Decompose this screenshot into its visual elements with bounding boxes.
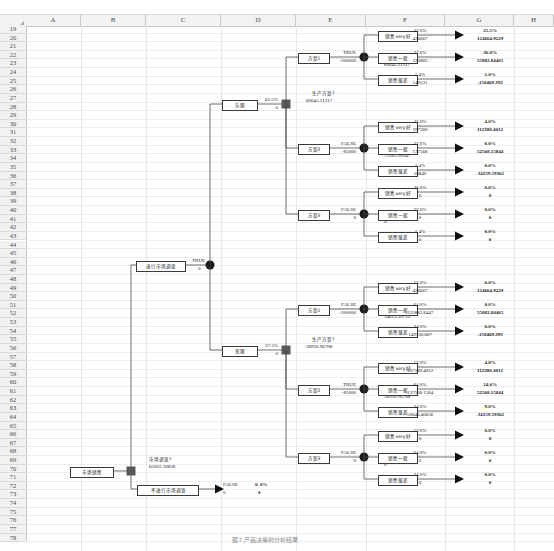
gridline-horizontal <box>26 231 554 232</box>
row-header-54[interactable]: 54 <box>0 327 27 336</box>
row-header-39[interactable]: 39 <box>0 197 27 206</box>
column-header-E[interactable]: E <box>296 14 366 27</box>
row-header-78[interactable]: 78 <box>0 534 27 543</box>
row-header-48[interactable]: 48 <box>0 275 27 284</box>
row-header-71[interactable]: 71 <box>0 473 27 482</box>
row-header-33[interactable]: 33 <box>0 146 27 155</box>
row-header-64[interactable]: 64 <box>0 413 27 422</box>
row-header-45[interactable]: 45 <box>0 249 27 258</box>
row-header-73[interactable]: 73 <box>0 490 27 499</box>
row-header-22[interactable]: 22 <box>0 51 27 60</box>
column-header-G[interactable]: G <box>445 14 514 27</box>
gridline-horizontal <box>26 446 554 447</box>
gridline-horizontal <box>26 76 554 77</box>
column-header-F[interactable]: F <box>366 14 445 27</box>
row-header-38[interactable]: 38 <box>0 189 27 198</box>
row-header-44[interactable]: 44 <box>0 241 27 250</box>
row-header-52[interactable]: 52 <box>0 309 27 318</box>
figure-caption: 图7 产品决策树分析结果 <box>100 536 430 550</box>
row-header-35[interactable]: 35 <box>0 163 27 172</box>
gridline-horizontal <box>26 326 554 327</box>
gridline-horizontal <box>26 524 554 525</box>
gridline-vertical <box>221 25 222 551</box>
gridline-horizontal <box>26 196 554 197</box>
gridline-horizontal <box>26 386 554 387</box>
row-header-69[interactable]: 69 <box>0 456 27 465</box>
row-header-74[interactable]: 74 <box>0 499 27 508</box>
row-header-30[interactable]: 30 <box>0 120 27 129</box>
row-header-66[interactable]: 66 <box>0 430 27 439</box>
gridline-horizontal <box>26 438 554 439</box>
gridline-vertical <box>514 25 515 551</box>
gridline-horizontal <box>26 343 554 344</box>
row-header-63[interactable]: 63 <box>0 404 27 413</box>
row-header-51[interactable]: 51 <box>0 301 27 310</box>
gridline-horizontal <box>26 360 554 361</box>
row-header-28[interactable]: 28 <box>0 103 27 112</box>
row-header-32[interactable]: 32 <box>0 137 27 146</box>
gridline-horizontal <box>26 214 554 215</box>
gridline-horizontal <box>26 412 554 413</box>
column-header-D[interactable]: D <box>221 14 296 27</box>
gridline-horizontal <box>26 171 554 172</box>
row-header-27[interactable]: 27 <box>0 94 27 103</box>
gridline-horizontal <box>26 472 554 473</box>
row-header-60[interactable]: 60 <box>0 378 27 387</box>
column-header-row: ABCDEFGH <box>0 14 554 25</box>
gridline-horizontal <box>26 41 554 42</box>
row-header-31[interactable]: 31 <box>0 128 27 137</box>
row-header-70[interactable]: 70 <box>0 465 27 474</box>
row-header-29[interactable]: 29 <box>0 111 27 120</box>
row-header-65[interactable]: 65 <box>0 422 27 431</box>
row-header-77[interactable]: 77 <box>0 525 27 534</box>
gridline-horizontal <box>26 308 554 309</box>
column-header-B[interactable]: B <box>81 14 146 27</box>
row-header-26[interactable]: 26 <box>0 85 27 94</box>
row-header-23[interactable]: 23 <box>0 59 27 68</box>
gridline-horizontal <box>26 162 554 163</box>
row-header-49[interactable]: 49 <box>0 284 27 293</box>
row-header-76[interactable]: 76 <box>0 516 27 525</box>
gridline-horizontal <box>26 248 554 249</box>
row-header-21[interactable]: 21 <box>0 42 27 51</box>
row-header-43[interactable]: 43 <box>0 232 27 241</box>
row-header-67[interactable]: 67 <box>0 439 27 448</box>
gridline-horizontal <box>26 179 554 180</box>
row-header-46[interactable]: 46 <box>0 258 27 267</box>
row-header-41[interactable]: 41 <box>0 215 27 224</box>
row-header-59[interactable]: 59 <box>0 370 27 379</box>
row-header-53[interactable]: 53 <box>0 318 27 327</box>
gridline-horizontal <box>26 33 554 34</box>
row-header-34[interactable]: 34 <box>0 154 27 163</box>
gridline-horizontal <box>26 93 554 94</box>
gridline-horizontal <box>26 240 554 241</box>
row-header-19[interactable]: 19 <box>0 25 27 34</box>
gridline-horizontal <box>26 300 554 301</box>
row-header-24[interactable]: 24 <box>0 68 27 77</box>
row-header-37[interactable]: 37 <box>0 180 27 189</box>
row-header-61[interactable]: 61 <box>0 387 27 396</box>
row-header-20[interactable]: 20 <box>0 34 27 43</box>
column-header-A[interactable]: A <box>26 14 81 27</box>
row-header-68[interactable]: 68 <box>0 447 27 456</box>
row-header-50[interactable]: 50 <box>0 292 27 301</box>
row-header-47[interactable]: 47 <box>0 266 27 275</box>
gridline-horizontal <box>26 84 554 85</box>
row-header-57[interactable]: 57 <box>0 353 27 362</box>
row-header-56[interactable]: 56 <box>0 344 27 353</box>
row-header-36[interactable]: 36 <box>0 172 27 181</box>
row-header-55[interactable]: 55 <box>0 335 27 344</box>
gridline-horizontal <box>26 455 554 456</box>
column-header-H[interactable]: H <box>514 14 554 27</box>
row-header-58[interactable]: 58 <box>0 361 27 370</box>
row-header-75[interactable]: 75 <box>0 508 27 517</box>
gridline-horizontal <box>26 145 554 146</box>
row-header-25[interactable]: 25 <box>0 77 27 86</box>
column-header-C[interactable]: C <box>146 14 221 27</box>
gridline-horizontal <box>26 515 554 516</box>
row-header-42[interactable]: 42 <box>0 223 27 232</box>
row-header-72[interactable]: 72 <box>0 482 27 491</box>
gridline-horizontal <box>26 489 554 490</box>
row-header-62[interactable]: 62 <box>0 396 27 405</box>
row-header-40[interactable]: 40 <box>0 206 27 215</box>
